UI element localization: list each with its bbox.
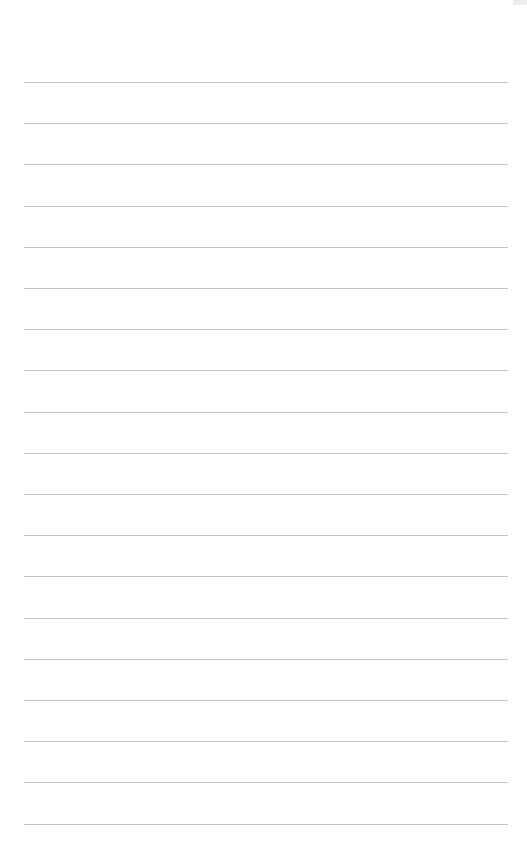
ruled-line <box>24 164 508 165</box>
ruled-line <box>24 288 508 289</box>
ruled-line <box>24 412 508 413</box>
ruled-line <box>24 453 508 454</box>
ruled-line <box>24 618 508 619</box>
ruled-line <box>24 700 508 701</box>
ruled-line <box>24 576 508 577</box>
ruled-line <box>24 824 508 825</box>
ruled-line <box>24 782 508 783</box>
ruled-line <box>24 370 508 371</box>
ruled-line <box>24 329 508 330</box>
ruled-line <box>24 123 508 124</box>
ruled-line <box>24 535 508 536</box>
ruled-line <box>24 82 508 83</box>
ruled-line <box>24 247 508 248</box>
ruled-line <box>24 494 508 495</box>
page-corner-mark <box>513 0 527 5</box>
ruled-line <box>24 659 508 660</box>
ruled-line <box>24 741 508 742</box>
lined-paper-page <box>0 0 527 866</box>
ruled-line <box>24 206 508 207</box>
